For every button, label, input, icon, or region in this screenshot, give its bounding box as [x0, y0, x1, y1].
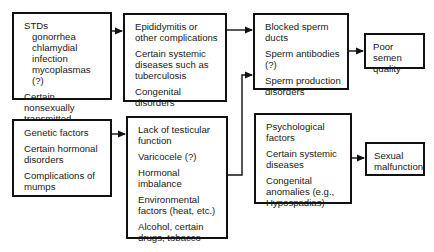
- box-sexual-malfunction: Sexual malfunction: [365, 142, 425, 176]
- box-stds: STDs gonorrhea chlamydial infection myco…: [12, 12, 112, 100]
- genetic-item: Complications of mumps: [24, 170, 104, 192]
- box-complications: Epididymitis or other complications Cert…: [123, 13, 227, 102]
- box-psychological: Psychological factors Certain systemic d…: [254, 113, 352, 204]
- stds-sub-item: gonorrhea: [24, 31, 104, 42]
- sperm-item: Sperm antibodies (?): [265, 48, 341, 70]
- sexual-malfunction-label: Sexual malfunction: [374, 150, 419, 172]
- genetic-item: Genetic factors: [24, 127, 104, 138]
- complications-item: Certain systemic diseases such as tuberc…: [135, 48, 219, 81]
- testicular-item: Hormonal imbalance: [138, 167, 220, 189]
- complications-item: Congenital disorders: [135, 86, 219, 108]
- sperm-item: Blocked sperm ducts: [265, 21, 341, 43]
- box-genetic: Genetic factors Certain hormonal disorde…: [12, 119, 112, 197]
- box-poor-semen-quality: Poor semen quality: [364, 33, 425, 69]
- stds-heading: STDs: [24, 20, 104, 31]
- testicular-item: Environmental factors (heat, etc.): [138, 194, 220, 216]
- box-testicular: Lack of testicular function Varicocele (…: [126, 116, 228, 239]
- genetic-item: Certain hormonal disorders: [24, 143, 104, 165]
- psychological-item: Psychological factors: [266, 121, 344, 143]
- stds-sub-item: mycoplasmas (?): [24, 64, 104, 86]
- sperm-item: Sperm production disorders: [265, 75, 341, 97]
- arrow-testicular-to-sperm: [227, 75, 252, 175]
- poor-semen-label: Poor semen quality: [373, 41, 419, 74]
- testicular-item: Lack of testicular function: [138, 124, 220, 146]
- psychological-item: Certain systemic diseases: [266, 148, 344, 170]
- testicular-item: Varicocele (?): [138, 151, 220, 162]
- testicular-item: Alcohol, certain drugs, tobacco: [138, 221, 220, 243]
- complications-item: Epididymitis or other complications: [135, 21, 219, 43]
- psychological-item: Congenital anomalies (e.g., Hypospadias): [266, 175, 344, 208]
- stds-sub-item: chlamydial infection: [24, 42, 104, 64]
- box-sperm: Blocked sperm ducts Sperm antibodies (?)…: [253, 13, 349, 90]
